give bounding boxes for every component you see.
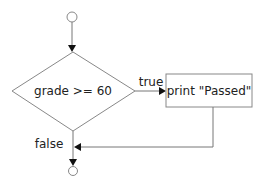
true-label: true — [139, 75, 164, 89]
flowchart: grade >= 60 true print "Passed" false — [0, 0, 265, 189]
decision-label: grade >= 60 — [34, 84, 112, 98]
start-node — [67, 12, 77, 22]
arrow-left-icon — [74, 143, 81, 151]
end-node — [69, 167, 78, 176]
action-label: print "Passed" — [167, 84, 252, 98]
arrow-down-icon — [68, 45, 76, 52]
false-label: false — [35, 137, 64, 151]
arrow-down-icon — [69, 159, 77, 166]
